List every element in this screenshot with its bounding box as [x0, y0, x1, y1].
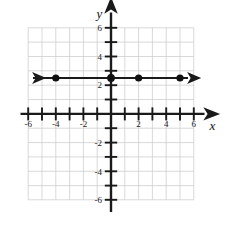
x-tick-label: 2 — [136, 119, 141, 129]
y-tick-label: -4 — [95, 167, 103, 177]
y-tick-label: -6 — [95, 195, 103, 205]
coordinate-plane-graph: -6 -4 -2 2 4 6 6 4 2 -2 -4 -6 x y — [0, 0, 227, 225]
y-axis-label: y — [95, 6, 103, 21]
x-tick-label: -6 — [24, 119, 32, 129]
y-tick-label: -2 — [95, 138, 103, 148]
x-axis-label: x — [209, 118, 216, 133]
data-point — [52, 74, 59, 81]
y-tick-label: 4 — [98, 52, 103, 62]
y-tick-label: 6 — [98, 23, 103, 33]
data-point — [135, 74, 142, 81]
x-tick-label: -4 — [52, 119, 60, 129]
data-point — [176, 74, 183, 81]
graph-canvas: -6 -4 -2 2 4 6 6 4 2 -2 -4 -6 x y — [0, 0, 227, 225]
x-tick-label: -2 — [80, 119, 88, 129]
x-tick-label: 4 — [164, 119, 169, 129]
x-tick-label: 6 — [192, 119, 197, 129]
data-point — [107, 74, 115, 82]
y-tick-label: 2 — [98, 80, 103, 90]
